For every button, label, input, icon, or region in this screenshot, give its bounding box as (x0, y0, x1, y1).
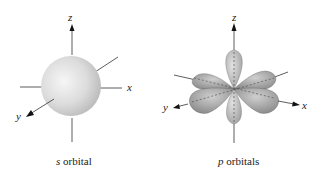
p-orbitals-figure: z x y p orbitals (162, 0, 324, 178)
z-axis-label: z (68, 11, 72, 23)
x-arrow-icon (292, 102, 300, 107)
s-orbital-figure: z x y s orbital (0, 0, 162, 178)
z-axis-label: z (232, 11, 236, 23)
y-axis-label: y (16, 110, 21, 122)
py-back-lobe (192, 74, 234, 90)
z-arrow-icon (70, 24, 75, 31)
x-axis-label: x (127, 81, 132, 93)
s-orbital-sphere (41, 56, 101, 116)
s-orbital-caption: s orbital (56, 155, 92, 167)
y-arrow-icon (173, 104, 180, 109)
caption-text: orbitals (224, 155, 260, 167)
y-arrow-icon (26, 110, 34, 117)
z-arrow-icon (232, 23, 237, 31)
caption-text: orbital (60, 155, 91, 167)
p-orbitals-caption: p orbitals (218, 155, 259, 167)
y-axis-back (95, 57, 118, 72)
x-axis-front (278, 101, 294, 104)
x-axis-label: x (302, 99, 307, 111)
p-orbitals-diagram (162, 0, 324, 178)
y-axis-label: y (163, 101, 168, 113)
s-orbital-diagram (0, 0, 162, 178)
